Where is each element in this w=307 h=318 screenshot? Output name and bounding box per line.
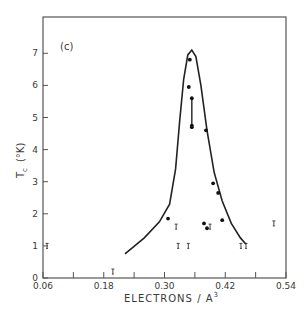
svg-text:0.18: 0.18 — [94, 281, 114, 291]
svg-text:Tc(°K): Tc(°K) — [15, 143, 29, 179]
y-axis-label: Tc(°K) — [15, 143, 29, 179]
svg-text:0.42: 0.42 — [215, 281, 235, 291]
svg-text:5: 5 — [32, 113, 38, 123]
svg-text:0.54: 0.54 — [276, 281, 296, 291]
upper-limit-markers — [46, 221, 276, 274]
svg-text:6: 6 — [32, 80, 38, 90]
tc-vs-electron-density-chart: 0.060.180.300.420.54 01234567 (c) ELECTR… — [0, 0, 307, 318]
panel-label: (c) — [60, 41, 73, 52]
svg-text:0.30: 0.30 — [154, 281, 174, 291]
data-points — [166, 58, 224, 230]
svg-text:7: 7 — [32, 48, 38, 58]
y-axis-ticks: 01234567 — [32, 48, 48, 283]
svg-text:2: 2 — [32, 209, 38, 219]
svg-text:4: 4 — [32, 145, 38, 155]
svg-text:1: 1 — [32, 241, 38, 251]
x-axis-ticks: 0.060.180.300.420.54 — [33, 272, 296, 291]
svg-text:0: 0 — [32, 273, 38, 283]
svg-text:3: 3 — [32, 177, 38, 187]
envelope-curve — [125, 50, 246, 254]
plot-frame — [43, 17, 286, 278]
x-axis-label: ELECTRONS / A3 — [124, 291, 219, 304]
